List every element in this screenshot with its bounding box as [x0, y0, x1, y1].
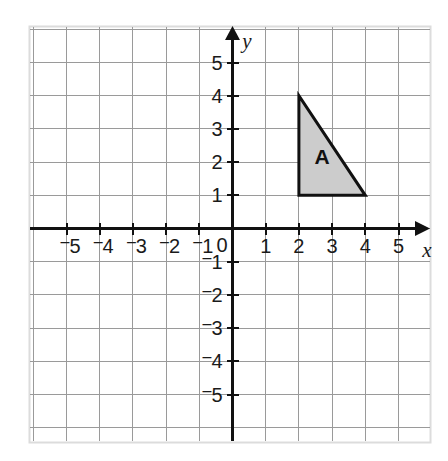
origin-label: 0 [216, 234, 227, 256]
x-tick-label: 4 [360, 235, 371, 257]
x-tick-label: 3 [327, 235, 338, 257]
x-tick-label: 5 [393, 235, 404, 257]
x-tick-label: 2 [293, 235, 304, 257]
x-axis-label: x [421, 238, 432, 262]
y-tick-label: 4 [211, 85, 222, 107]
y-tick-label: 1 [211, 184, 222, 206]
y-axis-label: y [240, 29, 252, 53]
y-tick-label: 2 [211, 151, 222, 173]
y-tick-label: 3 [211, 118, 222, 140]
shape-label-a: A [315, 145, 330, 168]
y-tick-label: 5 [211, 52, 222, 74]
coordinate-plane-figure: A –5–4–3–2–112345 54321–1–2–3–4–5 0 x y [0, 0, 448, 461]
x-tick-label: 1 [260, 235, 271, 257]
coordinate-grid-svg: A –5–4–3–2–112345 54321–1–2–3–4–5 0 x y [0, 0, 448, 461]
